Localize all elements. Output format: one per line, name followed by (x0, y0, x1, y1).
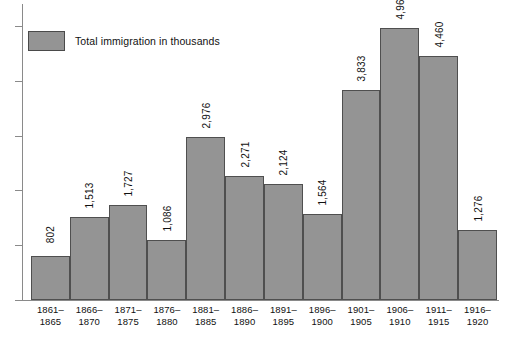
bar[interactable] (70, 217, 109, 300)
bar-slot: 1,086 (147, 4, 186, 300)
x-axis-label-start: 1901– (342, 304, 381, 316)
bar[interactable] (303, 214, 342, 300)
y-axis-tick (15, 26, 22, 27)
bar-slot: 1,727 (109, 4, 148, 300)
bar-slot: 2,271 (225, 4, 264, 300)
bar-value-label: 1,276 (472, 196, 483, 222)
bar-value-label: 1,727 (123, 171, 134, 197)
bar[interactable] (458, 230, 497, 300)
x-axis-line (20, 300, 499, 301)
bar[interactable] (342, 90, 381, 300)
x-axis-label-start: 1886– (225, 304, 264, 316)
x-axis-label-start: 1916– (458, 304, 497, 316)
x-axis-label: 1916–1920 (458, 304, 497, 328)
x-axis-label: 1896–1900 (303, 304, 342, 328)
bar-slot: 1,564 (303, 4, 342, 300)
bar[interactable] (419, 56, 458, 300)
bar-value-label: 4,962 (394, 0, 405, 20)
x-axis-label-end: 1895 (264, 316, 303, 328)
x-axis-label: 1871–1875 (109, 304, 148, 328)
bar-slot: 1,276 (458, 4, 497, 300)
x-axis-label-end: 1905 (342, 316, 381, 328)
y-axis-line (22, 4, 23, 301)
bar-value-label: 2,124 (278, 149, 289, 175)
x-axis-label-start: 1871– (109, 304, 148, 316)
x-axis-label: 1891–1895 (264, 304, 303, 328)
x-axis-labels: 1861–18651866–18701871–18751876–18801881… (31, 304, 497, 328)
y-axis-tick (15, 245, 22, 246)
immigration-bar-chart: Total immigration in thousands 8021,5131… (0, 0, 518, 345)
bar[interactable] (31, 256, 70, 300)
plot-area: 8021,5131,7271,0862,9762,2712,1241,5643,… (31, 4, 497, 300)
y-axis-tick (15, 81, 22, 82)
x-axis-label-end: 1900 (303, 316, 342, 328)
y-axis-tick (15, 190, 22, 191)
bar-slot: 4,962 (380, 4, 419, 300)
x-axis-label-end: 1890 (225, 316, 264, 328)
x-axis-label-start: 1891– (264, 304, 303, 316)
y-axis-tick (15, 136, 22, 137)
bar[interactable] (109, 205, 148, 300)
x-axis-label: 1881–1885 (186, 304, 225, 328)
x-axis-label-end: 1885 (186, 316, 225, 328)
bar-slot: 3,833 (342, 4, 381, 300)
x-axis-label: 1906–1910 (380, 304, 419, 328)
x-axis-label: 1901–1905 (342, 304, 381, 328)
x-axis-label-start: 1866– (70, 304, 109, 316)
x-axis-label: 1911–1915 (419, 304, 458, 328)
x-axis-label-end: 1910 (380, 316, 419, 328)
bar-slot: 802 (31, 4, 70, 300)
bar[interactable] (380, 28, 419, 300)
bar-slot: 1,513 (70, 4, 109, 300)
bar-value-label: 1,564 (317, 180, 328, 206)
bar-value-label: 2,271 (239, 141, 250, 167)
x-axis-label-start: 1881– (186, 304, 225, 316)
bar-value-label: 3,833 (356, 55, 367, 81)
bar-value-label: 1,513 (84, 183, 95, 209)
x-axis-label: 1866–1870 (70, 304, 109, 328)
bar-value-label: 2,976 (200, 102, 211, 128)
x-axis-label-start: 1911– (419, 304, 458, 316)
x-axis-label: 1861–1865 (31, 304, 70, 328)
bar-slot: 2,124 (264, 4, 303, 300)
bar-value-label: 1,086 (161, 206, 172, 232)
x-axis-label-end: 1865 (31, 316, 70, 328)
bar[interactable] (225, 176, 264, 300)
x-axis-label-start: 1896– (303, 304, 342, 316)
x-axis-label-end: 1915 (419, 316, 458, 328)
x-axis-label: 1886–1890 (225, 304, 264, 328)
bar-value-label: 802 (45, 226, 56, 243)
bar-value-label: 4,460 (433, 21, 444, 47)
x-axis-label-start: 1861– (31, 304, 70, 316)
bar[interactable] (264, 184, 303, 300)
bar-series: 8021,5131,7271,0862,9762,2712,1241,5643,… (31, 4, 497, 300)
x-axis-label-start: 1906– (380, 304, 419, 316)
x-axis-label-end: 1875 (109, 316, 148, 328)
bar[interactable] (186, 137, 225, 300)
x-axis-label-end: 1870 (70, 316, 109, 328)
bar-slot: 2,976 (186, 4, 225, 300)
x-axis-label-end: 1920 (458, 316, 497, 328)
x-axis-label-end: 1880 (147, 316, 186, 328)
bar[interactable] (147, 240, 186, 300)
bar-slot: 4,460 (419, 4, 458, 300)
x-axis-label-start: 1876– (147, 304, 186, 316)
x-axis-label: 1876–1880 (147, 304, 186, 328)
